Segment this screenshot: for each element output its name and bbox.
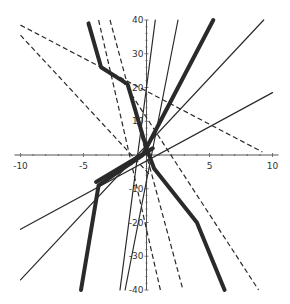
series-dashed-2 xyxy=(21,35,151,175)
line-chart: -10-551040302010-10-20-30-40 xyxy=(0,0,290,304)
y-tick-label: 30 xyxy=(132,49,144,59)
x-tick-label: 10 xyxy=(267,161,279,171)
series-solid-2 xyxy=(21,20,264,280)
y-tick-label: -30 xyxy=(129,251,144,261)
series-thick-3 xyxy=(96,148,153,182)
y-tick-label: 10 xyxy=(132,116,144,126)
x-tick-label: -5 xyxy=(79,161,88,171)
y-tick-label: 40 xyxy=(132,15,144,25)
x-tick-label: -10 xyxy=(13,161,28,171)
x-tick-label: 5 xyxy=(207,161,213,171)
y-tick-label: -10 xyxy=(129,184,144,194)
y-tick-label: -20 xyxy=(129,218,144,228)
y-tick-label: 20 xyxy=(132,83,144,93)
y-tick-label: -40 xyxy=(129,285,144,295)
